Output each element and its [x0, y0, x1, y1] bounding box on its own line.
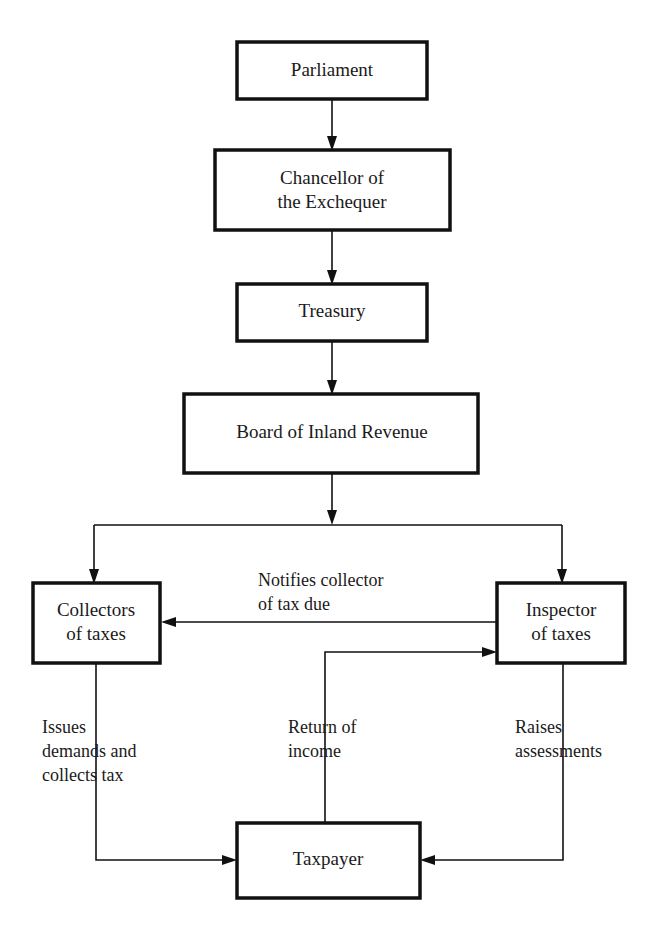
edge-label-issues-demands: Issues demands and collects tax: [42, 717, 136, 785]
node-collectors-label-line2: of taxes: [66, 623, 126, 644]
flowchart-diagram: Parliament Chancellor of the Exchequer T…: [0, 0, 666, 936]
node-chancellor-label-line1: Chancellor of: [280, 167, 385, 188]
node-inspector-of-taxes[interactable]: Inspector of taxes: [497, 583, 625, 663]
flowchart-canvas: Parliament Chancellor of the Exchequer T…: [0, 0, 666, 936]
node-chancellor[interactable]: Chancellor of the Exchequer: [215, 150, 450, 230]
edge-label-return-line2: income: [288, 741, 341, 761]
node-collectors-label-line1: Collectors: [57, 599, 135, 620]
node-treasury[interactable]: Treasury: [237, 284, 427, 341]
edge-label-notifies-line2: of tax due: [258, 594, 330, 614]
node-inspector-label-line2: of taxes: [531, 623, 591, 644]
node-collectors-of-taxes[interactable]: Collectors of taxes: [33, 583, 160, 663]
edge-label-return-of-income: Return of income: [288, 717, 356, 761]
connector-chancellor-to-treasury: [327, 230, 337, 285]
node-board-of-inland-revenue[interactable]: Board of Inland Revenue: [184, 394, 478, 473]
edge-label-notifies-line1: Notifies collector: [258, 570, 383, 590]
node-chancellor-label-line2: the Exchequer: [277, 191, 387, 212]
edge-label-raises-line2: assessments: [515, 741, 602, 761]
arrow-head-icon: [327, 510, 337, 525]
arrow-head-icon: [222, 855, 237, 865]
node-board-label: Board of Inland Revenue: [236, 421, 428, 442]
connector-inspector-notifies-collectors: [161, 617, 497, 627]
edge-label-raises-line1: Raises: [515, 717, 562, 737]
connector-treasury-to-board: [327, 340, 337, 395]
edge-label-issues-line3: collects tax: [42, 765, 123, 785]
edge-label-issues-line1: Issues: [42, 717, 86, 737]
connector-board-to-collectors: [89, 525, 99, 584]
edge-label-issues-line2: demands and: [42, 741, 136, 761]
edge-label-notifies-collector: Notifies collector of tax due: [258, 570, 383, 614]
connector-parliament-to-chancellor: [327, 99, 337, 151]
edge-label-raises-assessments: Raises assessments: [515, 717, 602, 761]
arrow-head-icon: [482, 647, 497, 657]
node-treasury-label: Treasury: [299, 300, 366, 321]
node-inspector-label-line1: Inspector: [526, 599, 597, 620]
node-parliament[interactable]: Parliament: [237, 42, 427, 99]
node-parliament-label: Parliament: [291, 59, 374, 80]
arrow-head-icon: [420, 855, 435, 865]
connector-inspector-to-taxpayer: [420, 663, 563, 865]
node-chancellor-box: [215, 150, 450, 230]
connector-collectors-to-taxpayer: [96, 663, 237, 865]
node-taxpayer[interactable]: Taxpayer: [237, 823, 420, 898]
arrow-head-icon: [161, 617, 176, 627]
connector-board-to-split: [94, 473, 562, 525]
node-taxpayer-label: Taxpayer: [293, 848, 364, 869]
edge-label-return-line1: Return of: [288, 717, 356, 737]
connector-board-to-inspector: [557, 525, 567, 584]
